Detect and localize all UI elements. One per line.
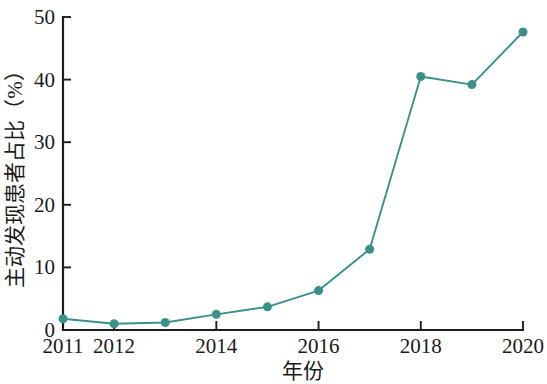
data-point: [110, 319, 119, 328]
y-tick-label: 20: [34, 193, 55, 217]
x-tick-label: 2016: [298, 334, 340, 358]
x-tick-label: 2014: [195, 334, 238, 358]
data-point: [519, 28, 528, 37]
y-tick-label: 10: [34, 255, 55, 279]
x-tick-label: 2018: [400, 334, 442, 358]
data-point: [161, 318, 170, 327]
x-axis-title: 年份: [282, 359, 324, 383]
x-tick-label: 2012: [93, 334, 135, 358]
x-tick-label: 2011: [42, 334, 83, 358]
y-tick-label: 40: [34, 68, 55, 92]
chart-canvas: 01020304050 201120122014201620182020 年份 …: [0, 0, 547, 384]
data-point: [467, 80, 476, 89]
data-point: [314, 286, 323, 295]
line-chart: 01020304050 201120122014201620182020 年份 …: [0, 0, 547, 384]
data-point: [59, 314, 68, 323]
data-point: [365, 245, 374, 254]
y-tick-label: 50: [34, 5, 55, 29]
data-point: [416, 72, 425, 81]
x-tick-label: 2020: [502, 334, 544, 358]
plot-background: [0, 0, 547, 384]
data-point: [212, 310, 221, 319]
data-point: [263, 302, 272, 311]
y-tick-label: 30: [34, 130, 55, 154]
y-axis-title: 主动发现患者占比（%）: [3, 60, 27, 288]
